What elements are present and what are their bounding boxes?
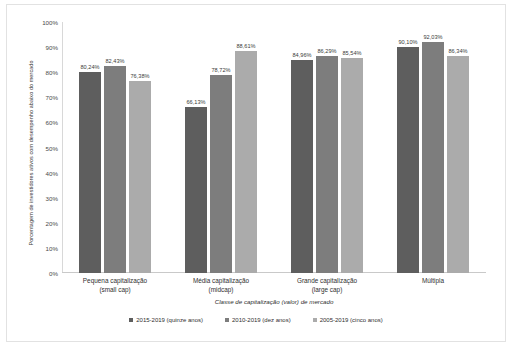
bar-column[interactable]: 92,03% bbox=[422, 22, 444, 273]
y-axis-tick-label: 40% bbox=[28, 169, 58, 176]
bar[interactable] bbox=[79, 72, 101, 273]
bar[interactable] bbox=[210, 75, 232, 273]
bar-value-label: 66,13% bbox=[187, 99, 206, 105]
bar-column[interactable]: 86,34% bbox=[447, 22, 469, 273]
bar-value-label: 90,10% bbox=[399, 39, 418, 45]
x-axis-category-label: Média capitalização(midcap) bbox=[168, 276, 274, 294]
category-label-line: (small cap) bbox=[62, 285, 168, 294]
bar-column[interactable]: 66,13% bbox=[185, 22, 207, 273]
bar-column[interactable]: 84,96% bbox=[291, 22, 313, 273]
category-label-line: (midcap) bbox=[168, 285, 274, 294]
bar-value-label: 86,34% bbox=[449, 48, 468, 54]
legend-label: 2015-2019 (quinze anos) bbox=[136, 317, 203, 323]
category-label-line: Pequena capitalização bbox=[62, 276, 168, 285]
bar-chart: Porcentagem de investidores ativos com d… bbox=[0, 0, 512, 346]
legend-item[interactable]: 2015-2019 (quinze anos) bbox=[129, 317, 203, 323]
legend-swatch-icon bbox=[225, 318, 229, 322]
x-axis-category-label: Grande capitalização(large cap) bbox=[274, 276, 380, 294]
x-axis-category-label: Múltipla bbox=[380, 276, 486, 294]
bar-column[interactable]: 86,29% bbox=[316, 22, 338, 273]
bar-value-label: 84,96% bbox=[293, 52, 312, 58]
y-axis-tick-label: 80% bbox=[28, 69, 58, 76]
y-axis-tick-label: 100% bbox=[28, 19, 58, 26]
bar-value-label: 80,24% bbox=[81, 64, 100, 70]
y-axis-tick-labels: 0%10%20%30%40%50%60%70%80%90%100% bbox=[28, 22, 58, 273]
bar-column[interactable]: 76,38% bbox=[129, 22, 151, 273]
y-axis-tick-label: 30% bbox=[28, 194, 58, 201]
x-axis-category-label: Pequena capitalização(small cap) bbox=[62, 276, 168, 294]
legend-label: 2005-2019 (cinco anos) bbox=[320, 317, 383, 323]
bar-group: 66,13%78,72%88,61% bbox=[168, 22, 274, 273]
category-label-line: Grande capitalização bbox=[274, 276, 380, 285]
bar-column[interactable]: 85,54% bbox=[341, 22, 363, 273]
bar-value-label: 76,38% bbox=[131, 73, 150, 79]
plot-area: 80,24%82,43%76,38%66,13%78,72%88,61%84,9… bbox=[62, 22, 486, 273]
bar-value-label: 85,54% bbox=[343, 50, 362, 56]
bar-group: 80,24%82,43%76,38% bbox=[62, 22, 168, 273]
bar-column[interactable]: 80,24% bbox=[79, 22, 101, 273]
category-label-line: (large cap) bbox=[274, 285, 380, 294]
bar-group: 90,10%92,03%86,34% bbox=[380, 22, 486, 273]
bar[interactable] bbox=[316, 56, 338, 273]
bar[interactable] bbox=[235, 51, 257, 273]
legend-swatch-icon bbox=[313, 318, 317, 322]
y-axis-tick-label: 70% bbox=[28, 94, 58, 101]
y-axis-tick-label: 90% bbox=[28, 44, 58, 51]
chart-legend: 2015-2019 (quinze anos)2010-2019 (dez an… bbox=[0, 317, 512, 323]
bar-value-label: 92,03% bbox=[424, 34, 443, 40]
y-axis-tick-label: 20% bbox=[28, 219, 58, 226]
y-axis-tick-label: 50% bbox=[28, 144, 58, 151]
bar-value-label: 82,43% bbox=[106, 58, 125, 64]
category-label-line: Média capitalização bbox=[168, 276, 274, 285]
x-axis-title: Classe de capitalização (valor) de merca… bbox=[62, 298, 486, 305]
bar-group: 84,96%86,29%85,54% bbox=[274, 22, 380, 273]
bar-value-label: 86,29% bbox=[318, 48, 337, 54]
bar-column[interactable]: 90,10% bbox=[397, 22, 419, 273]
bar-column[interactable]: 82,43% bbox=[104, 22, 126, 273]
bar[interactable] bbox=[397, 47, 419, 273]
y-axis-tick-label: 0% bbox=[28, 270, 58, 277]
bar[interactable] bbox=[341, 58, 363, 273]
bar[interactable] bbox=[291, 60, 313, 273]
bar-groups: 80,24%82,43%76,38%66,13%78,72%88,61%84,9… bbox=[62, 22, 486, 273]
bar-column[interactable]: 88,61% bbox=[235, 22, 257, 273]
bar[interactable] bbox=[185, 107, 207, 273]
bar[interactable] bbox=[129, 81, 151, 273]
bar-value-label: 88,61% bbox=[237, 43, 256, 49]
legend-item[interactable]: 2010-2019 (dez anos) bbox=[225, 317, 291, 323]
legend-item[interactable]: 2005-2019 (cinco anos) bbox=[313, 317, 383, 323]
bar-column[interactable]: 78,72% bbox=[210, 22, 232, 273]
x-axis-category-labels: Pequena capitalização(small cap)Média ca… bbox=[62, 276, 486, 294]
y-axis-tick-label: 10% bbox=[28, 244, 58, 251]
bar[interactable] bbox=[447, 56, 469, 273]
bar[interactable] bbox=[104, 66, 126, 273]
legend-swatch-icon bbox=[129, 318, 133, 322]
bar[interactable] bbox=[422, 42, 444, 273]
legend-label: 2010-2019 (dez anos) bbox=[232, 317, 291, 323]
bar-value-label: 78,72% bbox=[212, 67, 231, 73]
category-label-line: Múltipla bbox=[380, 276, 486, 285]
y-axis-tick-label: 60% bbox=[28, 119, 58, 126]
